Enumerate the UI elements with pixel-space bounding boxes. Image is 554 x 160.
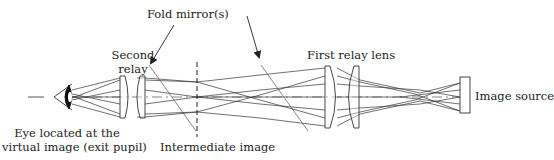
first-relay-label: First relay lens xyxy=(307,48,395,62)
eye-icon xyxy=(54,84,72,110)
eye-label-line2: virtual image (exit pupil) xyxy=(2,140,132,154)
fold-mirror-arrow-2 xyxy=(247,16,259,57)
second-relay-label-line2: relay xyxy=(108,62,158,76)
image-source-label: Image source xyxy=(475,89,554,103)
fold-mirrors-label: Fold mirror(s) xyxy=(147,7,229,21)
image-source-rect xyxy=(460,77,470,113)
second-relay-label: Second relay xyxy=(108,48,158,76)
pointer-arrows xyxy=(151,16,259,63)
light-rays xyxy=(72,68,460,126)
eye-label: Eye located at the virtual image (exit p… xyxy=(2,126,132,154)
eye-label-line1: Eye located at the xyxy=(2,126,132,140)
intermediate-image-label: Intermediate image xyxy=(160,140,275,154)
second-relay-label-line1: Second xyxy=(108,48,158,62)
